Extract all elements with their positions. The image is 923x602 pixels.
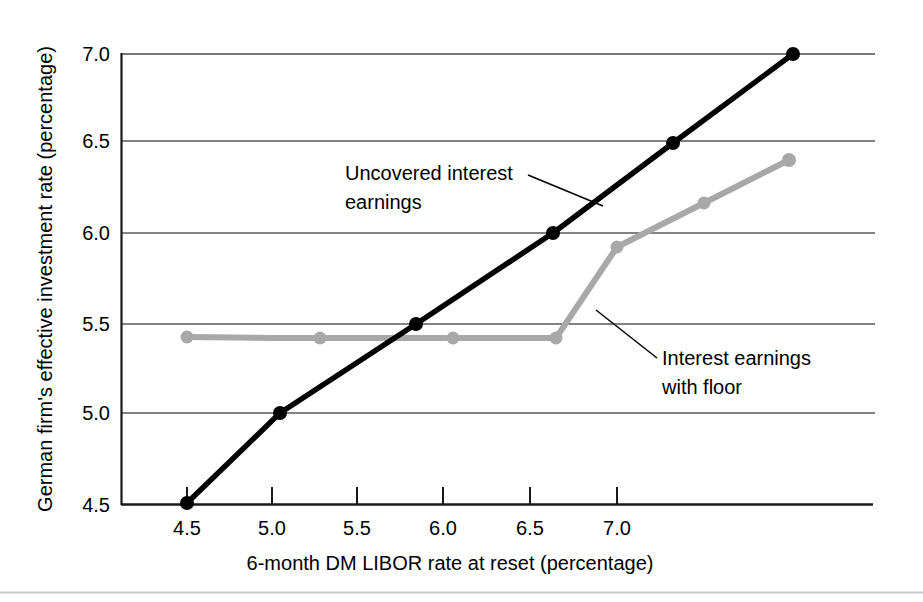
uncovered-data-point-4-5 <box>180 496 194 510</box>
uncovered-annotation-line2: earnings <box>345 191 422 213</box>
uncovered-data-point-5-0 <box>273 406 287 420</box>
floor-annotation-line2: with floor <box>661 376 742 398</box>
x-tick-label-7-0: 7.0 <box>603 517 631 539</box>
x-tick-label-4-5: 4.5 <box>173 517 201 539</box>
y-tick-label-4-5: 4.5 <box>82 494 110 516</box>
x-tick-label-5-0: 5.0 <box>258 517 286 539</box>
x-tick-label-6-5: 6.5 <box>516 517 544 539</box>
floor-data-point-5-5 <box>447 332 460 345</box>
chart-figure: 7.0 6.5 6.0 5.5 5.0 4.5 4.5 5.0 5.5 6.0 … <box>0 0 923 602</box>
floor-data-point-4-5 <box>181 331 194 344</box>
line-chart-svg: 7.0 6.5 6.0 5.5 5.0 4.5 4.5 5.0 5.5 6.0 … <box>0 0 923 602</box>
x-axis-title: 6-month DM LIBOR rate at reset (percenta… <box>247 552 654 574</box>
floor-data-point-5-0 <box>314 332 327 345</box>
floor-data-point-6-5 <box>611 241 624 254</box>
chart-background <box>0 0 923 602</box>
x-tick-label-6-0: 6.0 <box>429 517 457 539</box>
y-tick-label-6-0: 6.0 <box>82 222 110 244</box>
floor-data-point-6-75 <box>698 197 711 210</box>
floor-annotation-line1: Interest earnings <box>662 347 811 369</box>
uncovered-data-point-6-5 <box>666 136 680 150</box>
uncovered-data-point-6-0 <box>546 226 560 240</box>
uncovered-annotation-line1: Uncovered interest <box>345 162 513 184</box>
floor-data-point-6-0 <box>550 332 563 345</box>
floor-data-point-7-0 <box>782 153 796 167</box>
y-tick-label-5-0: 5.0 <box>82 402 110 424</box>
y-axis-title: German firm's effective investment rate … <box>34 46 56 512</box>
y-tick-label-7-0: 7.0 <box>82 43 110 65</box>
x-tick-label-5-5: 5.5 <box>343 517 371 539</box>
y-tick-label-6-5: 6.5 <box>82 130 110 152</box>
uncovered-data-point-7-0 <box>786 47 800 61</box>
uncovered-data-point-5-5 <box>409 317 423 331</box>
y-tick-label-5-5: 5.5 <box>82 313 110 335</box>
